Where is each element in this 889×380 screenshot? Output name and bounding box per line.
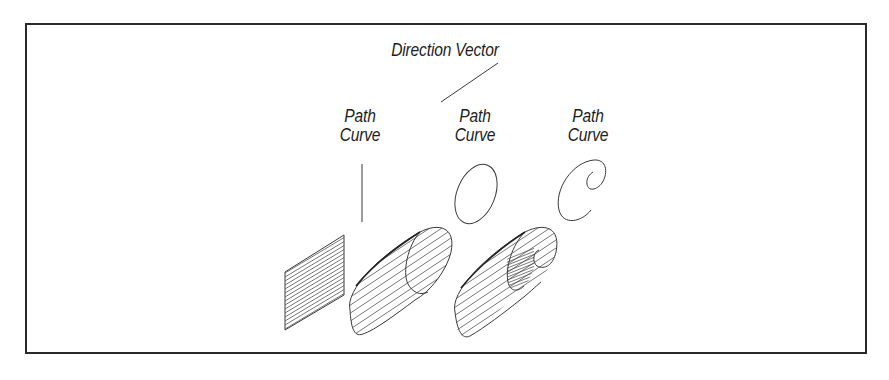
path-curve-label-1: Path Curve [323,106,397,144]
path-curve-spiral [558,160,606,221]
direction-vector-line [441,63,498,102]
path-curve-label-2: Path Curve [438,106,512,144]
elliptic-cylinder-surface [340,208,460,376]
path-curve-label-3: Path Curve [551,106,625,144]
path-curve-label-line2: Curve [323,125,397,144]
path-curve-label-line2: Curve [551,125,625,144]
diagram-frame [26,24,866,353]
tabulated-surface-diagram: Direction Vector Path Curve Path Curve P… [0,0,889,380]
path-curve-label-line2: Curve [438,125,512,144]
direction-vector-label: Direction Vector [363,40,527,59]
flat-plane-surface [280,234,350,340]
path-curve-label-line1: Path [438,106,512,125]
path-curve-label-line1: Path [323,106,397,125]
path-curve-ellipse [447,158,505,230]
path-curve-label-line1: Path [551,106,625,125]
